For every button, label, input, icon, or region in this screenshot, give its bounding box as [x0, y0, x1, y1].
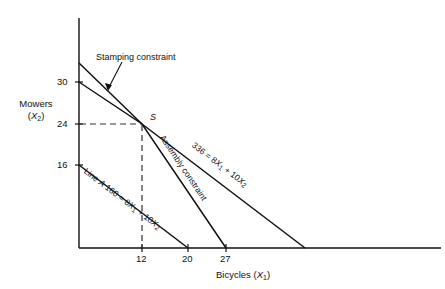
x-axis-title: Bicycles (X1): [216, 269, 270, 282]
linear-programming-chart: 30 24 16 12 20 27 Mowers (X2) Bicycles (…: [0, 0, 445, 289]
x-tick-label-20: 20: [182, 253, 193, 264]
stamping-constraint-callout-label: Stamping constraint: [96, 52, 176, 62]
y-axis-title-sub: 2: [37, 114, 41, 121]
point-s-label: S: [150, 112, 156, 122]
stamping-constraint-line: [79, 63, 305, 248]
y-axis-title: Mowers (X2): [10, 98, 62, 123]
y-tick-label-16: 16: [57, 159, 68, 170]
chart-canvas: [0, 0, 445, 289]
x-axis-title-main: Bicycles: [216, 269, 251, 280]
y-tick-label-30: 30: [57, 76, 68, 87]
x-axis-title-sub: 1: [263, 274, 267, 281]
x-tick-label-12: 12: [136, 253, 147, 264]
x-tick-label-27: 27: [220, 253, 231, 264]
y-axis-title-main: Mowers: [19, 98, 52, 109]
